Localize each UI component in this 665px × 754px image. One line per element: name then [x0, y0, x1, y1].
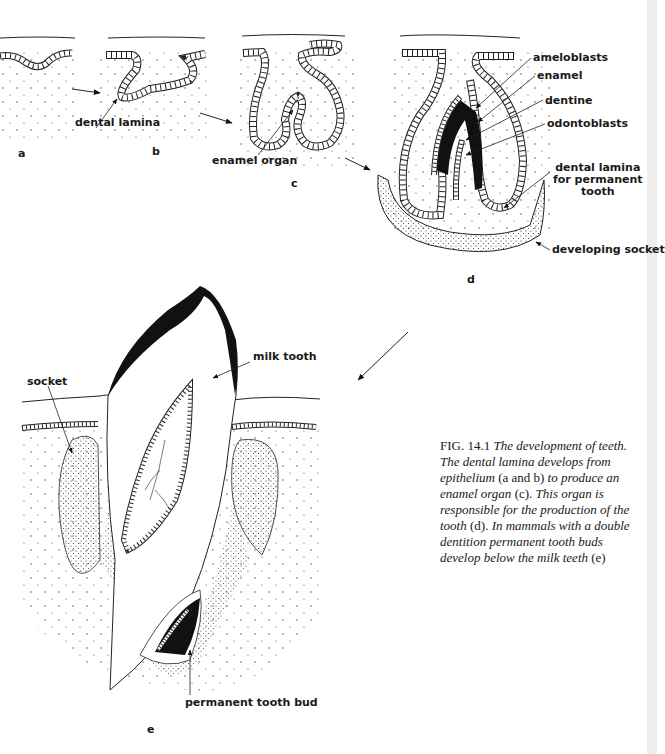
panel-a: [0, 37, 75, 140]
panel-label-d: d: [467, 274, 475, 286]
label-odontoblasts: odontoblasts: [547, 118, 628, 130]
label-dental-lamina-permanent: dental lamina for permanent tooth: [553, 162, 643, 198]
caption-part: (e): [588, 550, 606, 565]
panel-label-b: b: [152, 146, 160, 158]
panel-e: [22, 286, 320, 695]
panel-d: [358, 35, 550, 380]
label-permanent-tooth-bud: permanent tooth bud: [185, 697, 318, 709]
label-enamel-organ: enamel organ: [212, 155, 297, 167]
label-developing-socket: developing socket: [552, 244, 665, 256]
caption-part: (c).: [511, 486, 535, 501]
caption-part: (d).: [467, 518, 492, 533]
panel-label-c: c: [291, 178, 298, 190]
label-socket: socket: [27, 376, 67, 388]
label-enamel: enamel: [537, 70, 582, 82]
caption-fig-prefix: FIG.: [440, 438, 464, 453]
label-ameloblasts: ameloblasts: [533, 52, 608, 64]
caption-part: (a and b): [495, 470, 548, 485]
label-dentine: dentine: [545, 95, 593, 107]
figure-caption: FIG. 14.1 The development of teeth. The …: [440, 438, 640, 566]
panel-label-e: e: [147, 724, 154, 736]
panel-label-a: a: [18, 148, 25, 160]
label-dental-lamina: dental lamina: [75, 117, 160, 129]
panel-c: [200, 35, 370, 171]
label-milk-tooth: milk tooth: [253, 351, 317, 363]
caption-fig-number: 14.1: [467, 438, 490, 453]
